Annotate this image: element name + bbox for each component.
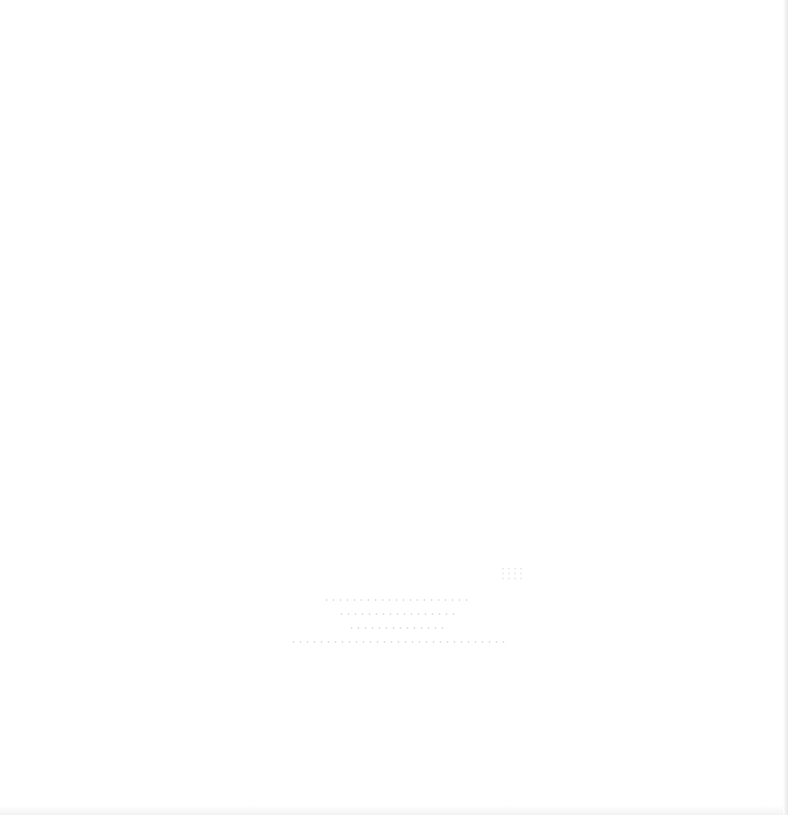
faded-text-line	[338, 612, 458, 616]
faded-text-line	[348, 626, 448, 630]
page-right-edge	[783, 0, 788, 815]
faded-text-line	[290, 640, 505, 644]
faded-mark	[500, 566, 526, 582]
faded-text-line	[323, 598, 473, 602]
faded-illegible-text-block	[285, 598, 510, 664]
page-bottom-edge	[0, 805, 788, 815]
blank-document-page	[0, 0, 788, 815]
